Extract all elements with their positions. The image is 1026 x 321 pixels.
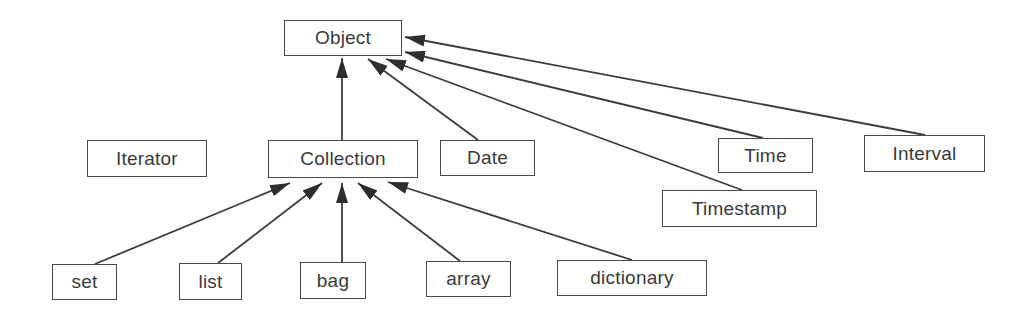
class-box-array: array <box>426 261 511 297</box>
arrow-interval-to-object <box>405 37 925 135</box>
class-box-bag: bag <box>300 262 366 299</box>
class-box-list: list <box>179 263 242 300</box>
arrow-array-to-collection <box>358 183 460 261</box>
class-box-interval: Interval <box>864 135 985 172</box>
arrow-list-to-collection <box>218 183 322 263</box>
arrow-dictionary-to-collection <box>388 182 632 260</box>
class-box-set: set <box>52 264 117 300</box>
class-box-collection: Collection <box>268 140 418 178</box>
class-box-date: Date <box>440 140 535 176</box>
class-box-dictionary: dictionary <box>557 260 707 296</box>
class-box-time: Time <box>718 138 813 173</box>
class-box-timestamp: Timestamp <box>662 190 817 227</box>
arrow-date-to-object <box>368 59 478 140</box>
class-box-iterator: Iterator <box>87 140 207 177</box>
arrow-set-to-collection <box>95 183 290 264</box>
class-box-object: Object <box>284 20 402 56</box>
class-hierarchy-diagram: Object Iterator Collection Date Time Int… <box>0 0 1026 321</box>
